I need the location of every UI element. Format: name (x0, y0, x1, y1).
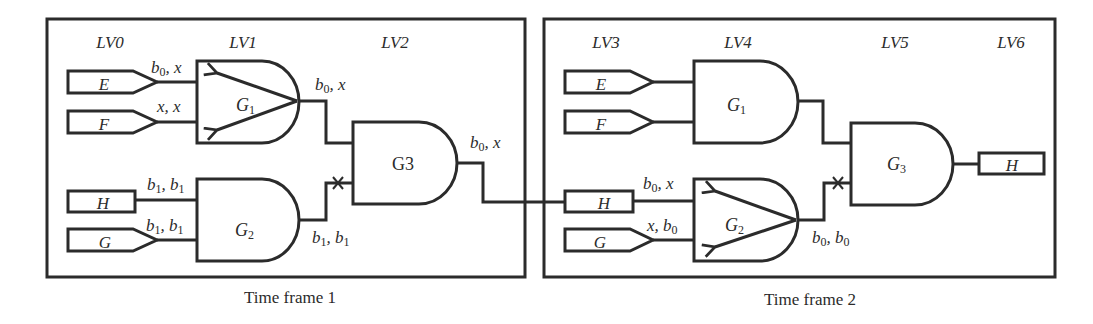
frame-2-caption: Time frame 2 (764, 290, 856, 309)
level-label-lv4: LV4 (723, 33, 752, 52)
gate-g2: G2 (197, 179, 299, 261)
input-pin-shape (565, 71, 653, 93)
and-gate-shape (694, 179, 798, 261)
input-pin-shape (68, 229, 157, 251)
level-label-lv6: LV6 (996, 33, 1025, 52)
gate-g1: G1 (694, 61, 798, 143)
input-h: H (68, 191, 135, 213)
input-label: G (594, 233, 606, 252)
wire-label-g3-out: b0, x (470, 133, 501, 154)
input-label: H (96, 194, 111, 213)
input-h: H (565, 191, 633, 213)
and-gate-shape (197, 179, 299, 261)
input-pin-shape (565, 229, 653, 251)
gate-label: G3 (392, 154, 414, 174)
output-h: H (979, 153, 1044, 175)
frame-1-caption: Time frame 1 (244, 288, 336, 307)
input-label: E (98, 75, 110, 94)
wire-label-e-to-g1: b0, x (151, 58, 182, 79)
gate-g3: G3 (353, 122, 457, 204)
input-pin-shape (565, 111, 653, 133)
level-label-lv1: LV1 (228, 33, 257, 52)
and-gate-shape (694, 61, 798, 143)
wire-label-f-to-g1: x, x (156, 97, 181, 116)
wire-label-g1-out: b0, x (315, 75, 346, 96)
wire-label-h-to-g2: b0, x (643, 174, 674, 195)
gate-g1: G1 (197, 61, 299, 143)
output-label: H (1005, 156, 1020, 175)
level-label-lv0: LV0 (95, 33, 124, 52)
input-pin-shape (68, 71, 157, 93)
input-pin-shape (68, 111, 157, 133)
input-label: G (99, 233, 111, 252)
input-label: H (597, 194, 612, 213)
level-label-lv5: LV5 (880, 33, 909, 52)
time-frame-diagram: LV0 LV1 LV2 E F G1 H G (0, 0, 1093, 324)
gate-g3: G3 (851, 123, 953, 205)
level-label-lv2: LV2 (380, 33, 409, 52)
level-label-lv3: LV3 (591, 33, 620, 52)
input-label: F (595, 115, 607, 134)
input-label: E (595, 75, 607, 94)
input-label: F (98, 115, 110, 134)
gate-g2: G2 (694, 179, 798, 261)
